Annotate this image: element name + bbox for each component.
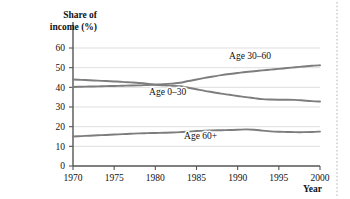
series-labels: Age 0–30Age 0–30Age 30–60Age 30–60Age 60… bbox=[149, 51, 271, 142]
x-tick-label: 2000 bbox=[311, 173, 330, 183]
series-line bbox=[73, 65, 320, 87]
y-tick-label: 50 bbox=[56, 63, 66, 73]
data-series bbox=[73, 65, 320, 136]
x-axis-tick-labels: 1970197519801985199019952000 bbox=[64, 173, 330, 183]
y-tick-label: 0 bbox=[60, 161, 65, 171]
line-chart: 0102030405060 19701975198019851990199520… bbox=[0, 0, 350, 199]
series-label: Age 60+ bbox=[184, 131, 217, 141]
axes bbox=[73, 22, 320, 166]
y-axis-tick-labels: 0102030405060 bbox=[56, 43, 66, 171]
y-tick-label: 30 bbox=[56, 102, 66, 112]
x-tick-label: 1995 bbox=[269, 173, 288, 183]
y-axis-title-line1: Share of bbox=[63, 10, 98, 20]
y-tick-label: 40 bbox=[56, 83, 66, 93]
chart-figure: 0102030405060 19701975198019851990199520… bbox=[0, 0, 350, 199]
y-tick-label: 60 bbox=[56, 43, 66, 53]
series-line bbox=[73, 79, 320, 101]
y-tick-label: 10 bbox=[56, 142, 66, 152]
x-tick-label: 1970 bbox=[64, 173, 83, 183]
series-label: Age 0–30 bbox=[149, 87, 186, 97]
x-tick-label: 1985 bbox=[187, 173, 206, 183]
x-tick-label: 1980 bbox=[146, 173, 165, 183]
y-axis-title-line2: income (%) bbox=[50, 22, 97, 33]
series-label: Age 30–60 bbox=[229, 51, 271, 61]
y-tick-label: 20 bbox=[56, 122, 66, 132]
tick-marks bbox=[69, 48, 320, 170]
x-tick-label: 1990 bbox=[228, 173, 247, 183]
x-axis-title: Year bbox=[303, 184, 323, 194]
x-tick-label: 1975 bbox=[105, 173, 124, 183]
